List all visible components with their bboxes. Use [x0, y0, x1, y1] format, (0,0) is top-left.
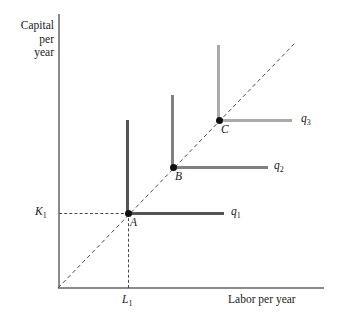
- expansion-path-ray: [58, 42, 296, 288]
- y-axis-title: Capital per year: [14, 19, 54, 60]
- isoquant-label-q3: q3: [301, 112, 311, 127]
- q3-subscript: 3: [307, 118, 311, 127]
- isoquant-q3-horizontal: [219, 119, 292, 122]
- isoquant-label-q2: q2: [274, 159, 284, 174]
- isoquant-q3-vertical: [217, 45, 220, 122]
- isoquant-q1-vertical: [126, 120, 129, 215]
- l1-subscript: 1: [128, 299, 132, 308]
- isoquant-q2-vertical: [171, 95, 174, 169]
- isoquant-label-q1: q1: [231, 205, 241, 220]
- vertex-label-c: C: [221, 123, 229, 135]
- k1-guide-line: [59, 213, 129, 214]
- y-axis: [58, 14, 60, 288]
- isoquant-q2-horizontal: [173, 166, 268, 169]
- vertex-label-b: B: [175, 170, 182, 182]
- k1-letter: K: [35, 205, 43, 217]
- q2-subscript: 2: [280, 165, 284, 174]
- k1-subscript: 1: [43, 211, 47, 220]
- isoquant-q1-horizontal: [128, 212, 224, 215]
- l1-guide-line: [128, 213, 129, 288]
- isoquant-diagram: Capital per year Labor per year K1 L1 A …: [0, 0, 340, 327]
- q1-subscript: 1: [237, 211, 241, 220]
- x-axis-title: Labor per year: [228, 293, 296, 307]
- vertex-label-a: A: [130, 216, 137, 228]
- x-axis: [58, 287, 324, 289]
- y-tick-label-k1: K1: [35, 205, 47, 220]
- x-tick-label-l1: L1: [122, 293, 132, 308]
